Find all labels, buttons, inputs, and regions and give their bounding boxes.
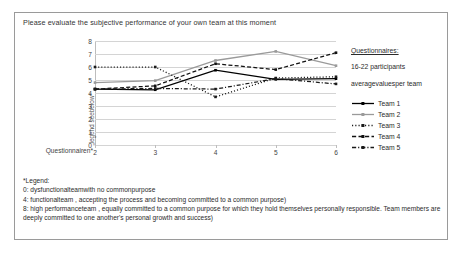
data-point — [214, 88, 217, 91]
y-tick: 8 — [88, 38, 92, 45]
data-point — [94, 81, 97, 84]
y-tick: 2 — [88, 116, 92, 123]
y-tick: 3 — [88, 103, 92, 110]
x-tick: 5 — [274, 149, 278, 156]
legend-item-team-1[interactable]: Team 1 — [351, 98, 445, 109]
legend-label: Team 4 — [378, 133, 400, 140]
legend-label: Team 1 — [378, 100, 400, 107]
x-tick-mark — [336, 145, 337, 148]
y-tick: 5 — [88, 77, 92, 84]
x-tick-mark — [95, 145, 96, 148]
plot-area: „legend seebelow* Questionnairen* 012345… — [95, 41, 336, 145]
data-point — [335, 83, 338, 86]
legend-label: Team 3 — [378, 122, 400, 129]
x-axis-label: Questionnairen* — [46, 147, 93, 154]
legend-label: Team 2 — [378, 111, 400, 118]
questionnaires-panel: Questionnaires: 16-22 participants avera… — [351, 47, 445, 153]
panel-heading: Questionnaires: — [351, 47, 445, 54]
data-point — [214, 62, 217, 65]
series-line-team-5 — [95, 79, 336, 89]
data-point — [214, 96, 217, 99]
series-line-team-2 — [95, 51, 336, 82]
legend-swatch-icon — [351, 121, 375, 130]
y-tick: 1 — [88, 129, 92, 136]
data-point — [94, 88, 97, 91]
x-tick: 4 — [214, 149, 218, 156]
footnote-level-8: 8: high performanceteam , equally commit… — [23, 204, 441, 223]
x-tick-mark — [276, 145, 277, 148]
slide-frame: Please evaluate the subjective performan… — [14, 12, 448, 240]
x-tick: 3 — [153, 149, 157, 156]
footnote-heading: *Legend: — [23, 176, 441, 185]
data-point — [335, 75, 338, 78]
panel-averages: averagevaluesper team — [351, 80, 445, 88]
y-tick: 6 — [88, 64, 92, 71]
series-line-team-1 — [95, 70, 336, 90]
panel-participants: 16-22 participants — [351, 63, 445, 71]
data-point — [335, 51, 338, 54]
x-tick: 6 — [334, 149, 338, 156]
x-tick: 2 — [93, 149, 97, 156]
data-point — [154, 66, 157, 69]
page-title: Please evaluate the subjective performan… — [23, 18, 276, 27]
data-point — [214, 59, 217, 62]
legend-swatch-icon — [351, 99, 375, 108]
legend-item-team-4[interactable]: Team 4 — [351, 131, 445, 142]
x-tick-mark — [155, 145, 156, 148]
y-tick: 4 — [88, 90, 92, 97]
data-point — [274, 77, 277, 80]
data-point — [214, 69, 217, 72]
data-point — [274, 50, 277, 53]
legend-item-team-2[interactable]: Team 2 — [351, 109, 445, 120]
y-tick: 0 — [88, 142, 92, 149]
y-tick: 7 — [88, 51, 92, 58]
legend-swatch-icon — [351, 132, 375, 141]
data-point — [94, 66, 97, 69]
legend-label: Team 5 — [378, 144, 400, 151]
data-point — [274, 68, 277, 71]
footnote-level-0: 0: dysfunctionalteamwith no commonpurpos… — [23, 185, 441, 194]
legend-swatch-icon — [351, 143, 375, 152]
data-point — [154, 79, 157, 82]
chart-legend: Team 1Team 2Team 3Team 4Team 5 — [351, 98, 445, 153]
data-point — [335, 64, 338, 67]
data-point — [154, 87, 157, 90]
data-point — [154, 85, 157, 88]
line-chart: „legend seebelow* Questionnairen* 012345… — [63, 35, 338, 163]
legend-item-team-3[interactable]: Team 3 — [351, 120, 445, 131]
x-tick-mark — [216, 145, 217, 148]
legend-swatch-icon — [351, 110, 375, 119]
legend-item-team-5[interactable]: Team 5 — [351, 142, 445, 153]
footnote-legend: *Legend: 0: dysfunctionalteamwith no com… — [23, 176, 441, 223]
series-markers — [95, 41, 336, 145]
footnote-level-4: 4: functionalteam , accepting the proces… — [23, 195, 441, 204]
